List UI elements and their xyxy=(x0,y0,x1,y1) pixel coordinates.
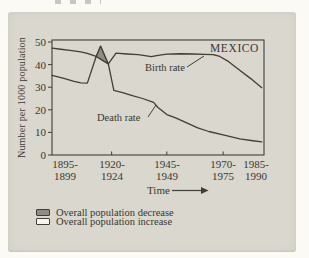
y-tick-label-20: 20 xyxy=(30,104,46,116)
x-tick-label-1895-1899: 1895-1899 xyxy=(48,159,82,182)
y-tick-label-30: 30 xyxy=(30,81,46,93)
x-tick-label-1970-1975: 1970-1975 xyxy=(206,159,240,182)
legend-row-increase: Overall population increase xyxy=(36,217,172,226)
x-tick-label-1920-1924: 1920-1924 xyxy=(95,159,129,182)
chart-card: Number per 1000 population 50 40 30 20 1… xyxy=(8,12,296,252)
y-tick-label-10: 10 xyxy=(30,126,46,138)
legend-decrease-swatch xyxy=(36,209,50,216)
x-tick-label-1985-1990: 1985-1990 xyxy=(239,159,273,182)
country-label: MEXICO xyxy=(210,42,259,54)
scan-artifact xyxy=(55,0,101,4)
x-tick-label-1945-1949: 1945-1949 xyxy=(150,159,184,182)
legend-increase-label: Overall population increase xyxy=(56,217,172,227)
birth-rate-label: Birth rate xyxy=(145,62,185,73)
y-tick-label-0: 0 xyxy=(30,149,46,161)
death-rate-label: Death rate xyxy=(97,112,140,123)
y-axis-title: Number per 1000 population xyxy=(16,38,28,158)
scanned-page: { "chart_data": { "type": "line", "title… xyxy=(0,0,309,258)
legend-increase-swatch xyxy=(36,218,50,225)
y-tick-label-40: 40 xyxy=(30,59,46,71)
time-axis-label: Time xyxy=(147,184,170,196)
y-tick-label-50: 50 xyxy=(30,36,46,48)
